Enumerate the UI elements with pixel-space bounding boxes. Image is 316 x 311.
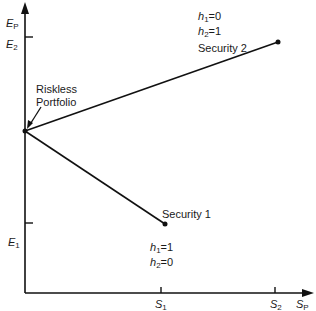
x-axis-label: SP: [296, 298, 309, 311]
security-1-label: Security 1: [162, 208, 211, 220]
y-tick-label-e2: E2: [6, 38, 18, 54]
riskless-point: [23, 129, 28, 134]
x-axis-arrow-icon: [302, 289, 314, 297]
security-2-label: Security 2: [198, 42, 247, 54]
security-1-h1: h1=1: [150, 241, 173, 257]
y-axis-label: EP: [6, 17, 19, 33]
x-tick-label-s1: S1: [155, 298, 167, 311]
y-tick-label-e1: E1: [8, 236, 20, 252]
security-2-point: [276, 40, 281, 45]
y-axis-arrow-icon: [21, 2, 29, 14]
security-1-h2: h2=0: [150, 256, 173, 272]
riskless-label-line2: Portfolio: [36, 96, 76, 108]
security-2-h1: h1=0: [198, 10, 221, 26]
riskless-label-line1: Riskless: [36, 83, 77, 95]
security-2-h2: h2=1: [198, 25, 221, 41]
security-1-point: [163, 222, 168, 227]
x-tick-label-s2: S2: [270, 298, 282, 311]
line-to-security-1: [25, 131, 165, 224]
